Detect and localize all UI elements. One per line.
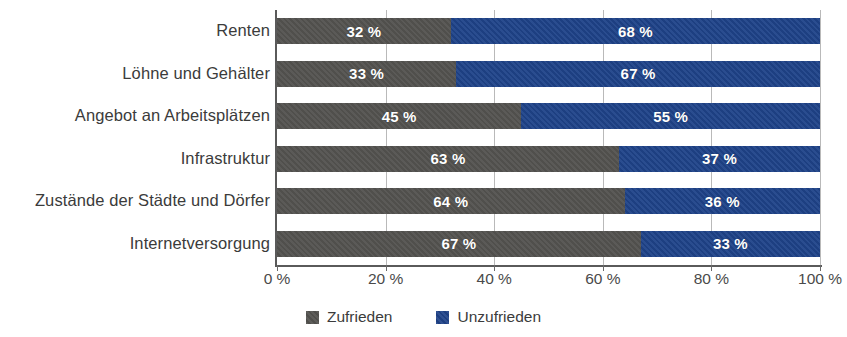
x-axis-tick-label: 0 % bbox=[264, 270, 291, 288]
x-axis-tick-label: 60 % bbox=[585, 270, 620, 288]
bar-value-label: 37 % bbox=[702, 150, 737, 167]
plot-area: 32 %68 %33 %67 %45 %55 %63 %37 %64 %36 %… bbox=[277, 10, 820, 265]
bar-value-label: 67 % bbox=[441, 235, 476, 252]
bar-segment-unsatisfied: 67 % bbox=[456, 61, 820, 87]
legend-label: Unzufrieden bbox=[457, 308, 541, 326]
chart-legend: ZufriedenUnzufrieden bbox=[0, 308, 847, 326]
unsatisfied-swatch bbox=[436, 311, 449, 324]
bar-segment-satisfied: 63 % bbox=[277, 146, 619, 172]
bar-segment-unsatisfied: 33 % bbox=[641, 231, 820, 257]
category-label: Angebot an Arbeitsplätzen bbox=[0, 106, 270, 125]
bar-value-label: 63 % bbox=[431, 150, 466, 167]
bar-value-label: 64 % bbox=[433, 193, 468, 210]
gridline bbox=[603, 10, 604, 265]
x-axis-line bbox=[275, 265, 822, 267]
satisfied-swatch bbox=[306, 311, 319, 324]
bar-row: 67 %33 % bbox=[277, 231, 820, 257]
x-axis-tick-label: 80 % bbox=[694, 270, 729, 288]
bar-segment-unsatisfied: 68 % bbox=[451, 18, 820, 44]
horizontal-stacked-bar-chart: RentenLöhne und GehälterAngebot an Arbei… bbox=[0, 0, 847, 337]
bar-value-label: 68 % bbox=[618, 23, 653, 40]
legend-label: Zufrieden bbox=[327, 308, 392, 326]
x-axis-tick-labels: 0 %20 %40 %60 %80 %100 % bbox=[277, 270, 820, 294]
bar-value-label: 33 % bbox=[349, 65, 384, 82]
category-label: Renten bbox=[0, 21, 270, 40]
bar-row: 45 %55 % bbox=[277, 103, 820, 129]
bar-segment-satisfied: 33 % bbox=[277, 61, 456, 87]
x-axis-tick-label: 100 % bbox=[798, 270, 842, 288]
bar-segment-unsatisfied: 36 % bbox=[625, 188, 820, 214]
y-axis-line bbox=[275, 10, 277, 265]
bar-value-label: 36 % bbox=[705, 193, 740, 210]
gridline bbox=[711, 10, 712, 265]
legend-item[interactable]: Unzufrieden bbox=[436, 308, 541, 326]
gridline bbox=[386, 10, 387, 265]
category-label: Löhne und Gehälter bbox=[0, 64, 270, 83]
bar-row: 63 %37 % bbox=[277, 146, 820, 172]
bar-value-label: 55 % bbox=[653, 108, 688, 125]
legend-item[interactable]: Zufrieden bbox=[306, 308, 392, 326]
bar-value-label: 33 % bbox=[713, 235, 748, 252]
bar-segment-unsatisfied: 37 % bbox=[619, 146, 820, 172]
bar-segment-unsatisfied: 55 % bbox=[521, 103, 820, 129]
bar-row: 32 %68 % bbox=[277, 18, 820, 44]
bar-segment-satisfied: 45 % bbox=[277, 103, 521, 129]
bar-row: 33 %67 % bbox=[277, 61, 820, 87]
bar-segment-satisfied: 32 % bbox=[277, 18, 451, 44]
category-label: Infrastruktur bbox=[0, 149, 270, 168]
category-label: Internetversorgung bbox=[0, 234, 270, 253]
category-label: Zustände der Städte und Dörfer bbox=[0, 191, 270, 210]
bar-segment-satisfied: 64 % bbox=[277, 188, 625, 214]
bar-value-label: 67 % bbox=[621, 65, 656, 82]
bar-value-label: 45 % bbox=[382, 108, 417, 125]
x-axis-tick-label: 40 % bbox=[477, 270, 512, 288]
bar-value-label: 32 % bbox=[346, 23, 381, 40]
bar-segment-satisfied: 67 % bbox=[277, 231, 641, 257]
bar-row: 64 %36 % bbox=[277, 188, 820, 214]
category-axis-labels: RentenLöhne und GehälterAngebot an Arbei… bbox=[0, 10, 270, 265]
gridline bbox=[494, 10, 495, 265]
gridline bbox=[820, 10, 821, 265]
x-axis-tick-label: 20 % bbox=[368, 270, 403, 288]
